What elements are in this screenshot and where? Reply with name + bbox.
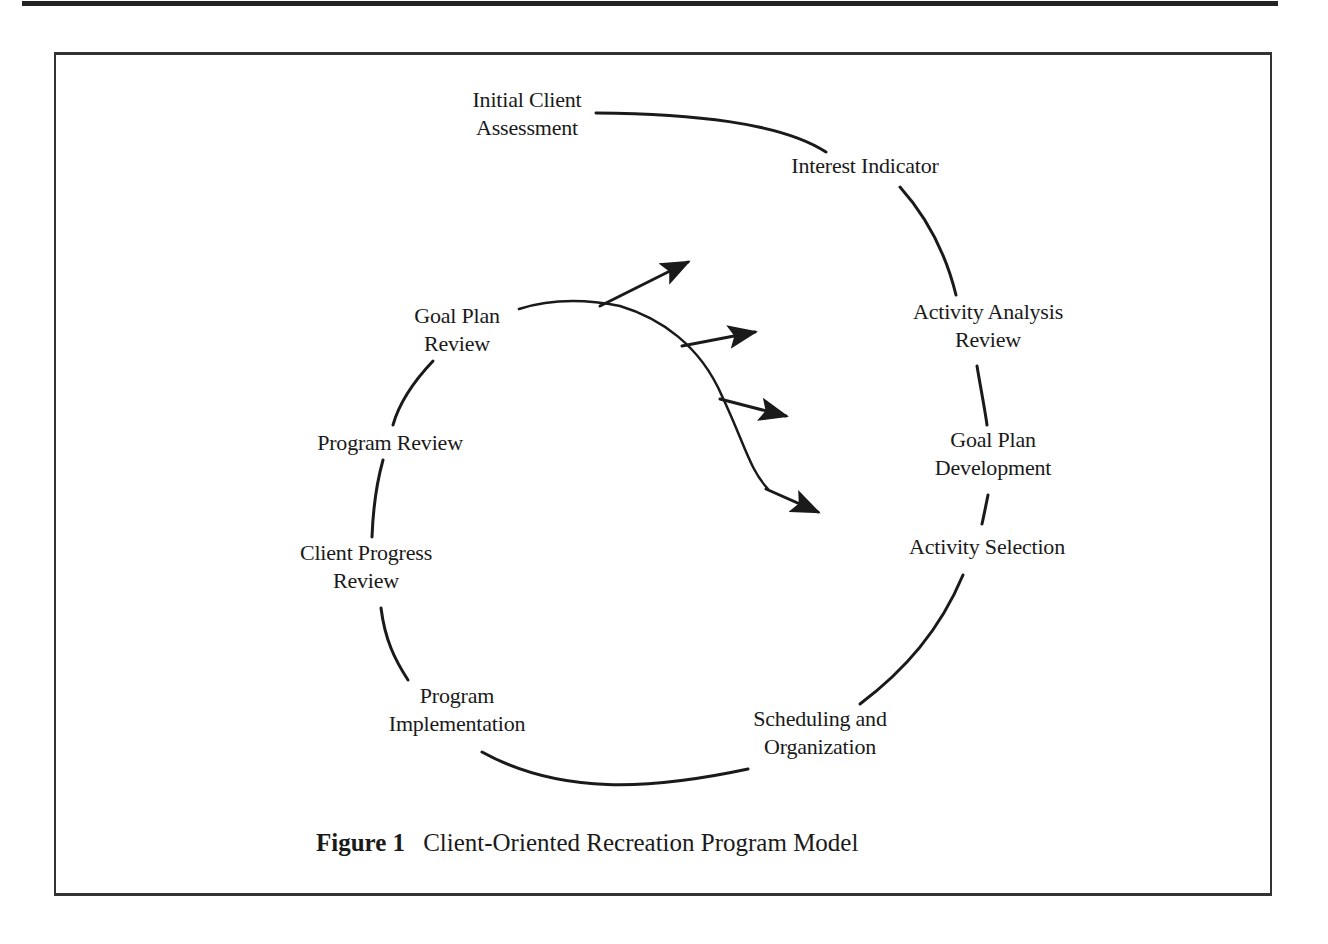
goal-review-outflow-curve: [519, 301, 768, 489]
node-program-review: Program Review: [317, 429, 463, 457]
node-activity-analysis-review: Activity Analysis Review: [913, 298, 1063, 354]
connector-implementation-to-progress: [381, 608, 408, 680]
node-activity-selection: Activity Selection: [909, 533, 1065, 561]
connector-interest-to-analysis: [900, 187, 956, 295]
connector-program-review-to-goal-review: [393, 361, 433, 425]
branch-arrow-2: [682, 332, 755, 346]
connector-progress-to-program-review: [372, 460, 383, 537]
figure-title: Client-Oriented Recreation Program Model: [423, 829, 858, 856]
figure-number: Figure 1: [316, 829, 405, 856]
node-client-progress-review: Client Progress Review: [300, 539, 432, 595]
figure-caption: Figure 1Client-Oriented Recreation Progr…: [316, 827, 858, 859]
node-scheduling-and-organization: Scheduling and Organization: [753, 705, 886, 761]
node-goal-plan-review: Goal Plan Review: [414, 302, 500, 358]
branch-arrow-1: [600, 262, 688, 306]
node-goal-plan-development: Goal Plan Development: [935, 426, 1051, 482]
connector-assessment-to-interest: [596, 113, 826, 152]
connector-analysis-to-development: [977, 366, 987, 425]
cycle-diagram: [0, 0, 1328, 944]
connector-development-to-selection: [982, 495, 988, 524]
node-initial-client-assessment: Initial Client Assessment: [472, 86, 581, 142]
branch-arrow-4: [766, 489, 818, 512]
node-interest-indicator: Interest Indicator: [791, 152, 938, 180]
node-program-implementation: Program Implementation: [389, 682, 526, 738]
connector-selection-to-scheduling: [860, 575, 963, 704]
connector-scheduling-to-implementation: [482, 752, 748, 785]
